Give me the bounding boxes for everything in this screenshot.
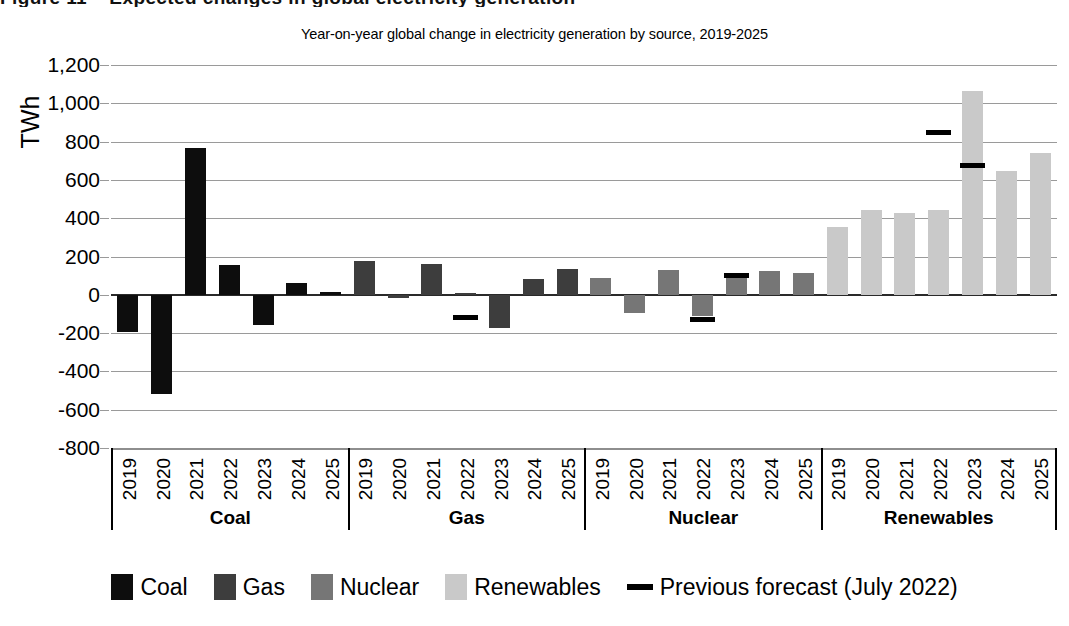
bar-nuclear-2023 [726, 277, 747, 295]
legend-swatch-icon [311, 574, 333, 600]
bar-coal-2021 [185, 148, 206, 294]
y-axis-tick [100, 448, 109, 449]
forecast-marker-nuclear-2022 [690, 317, 715, 322]
forecast-marker-renewables-2022 [926, 130, 951, 135]
bar-renewables-2020 [861, 210, 882, 295]
legend-label: Renewables [474, 574, 601, 601]
y-axis-tick [100, 65, 109, 66]
y-axis-tick [100, 295, 109, 296]
y-axis-tick-label: 600 [12, 169, 100, 190]
y-axis-tick-label: 800 [12, 131, 100, 152]
bar-nuclear-2019 [590, 278, 611, 295]
y-axis-tick-label: -600 [12, 399, 100, 420]
y-axis-tick [100, 103, 109, 104]
bar-gas-2023 [489, 295, 510, 329]
y-axis-tick-label: -400 [12, 360, 100, 381]
bar-gas-2022 [455, 293, 476, 295]
bar-renewables-2023 [962, 91, 983, 295]
legend-item-gas: Gas [214, 574, 285, 601]
y-axis-tick [100, 218, 109, 219]
y-axis-tick-label: 0 [12, 284, 100, 305]
y-axis-tick-label: 1,200 [12, 54, 100, 75]
y-axis-tick-label: 1,000 [12, 92, 100, 113]
legend-dash-icon [627, 584, 653, 590]
bar-nuclear-2021 [658, 270, 679, 295]
gridline [111, 333, 1057, 334]
bar-gas-2019 [354, 261, 375, 295]
legend-swatch-icon [445, 574, 467, 600]
legend-label: Gas [243, 574, 285, 601]
y-axis-tick-label: 200 [12, 246, 100, 267]
bar-renewables-2021 [894, 213, 915, 294]
plot-area: 1,2001,0008006004002000-200-400-600-800 … [0, 0, 1069, 626]
bar-gas-2024 [523, 279, 544, 295]
y-axis-tick [100, 142, 109, 143]
bar-nuclear-2024 [759, 271, 780, 295]
gridline [111, 65, 1057, 66]
legend-label: Previous forecast (July 2022) [660, 574, 958, 601]
y-axis-tick [100, 333, 109, 334]
y-axis-tick-label: -200 [12, 322, 100, 343]
bar-nuclear-2022 [692, 295, 713, 316]
bar-nuclear-2025 [793, 273, 814, 294]
bar-gas-2020 [388, 295, 409, 298]
bar-renewables-2025 [1030, 153, 1051, 295]
bar-gas-2021 [421, 264, 442, 295]
forecast-marker-gas-2022 [453, 315, 478, 320]
legend-item-nuclear: Nuclear [311, 574, 419, 601]
legend-label: Nuclear [340, 574, 419, 601]
legend-swatch-icon [214, 574, 236, 600]
legend-label: Coal [140, 574, 187, 601]
bar-gas-2025 [557, 269, 578, 295]
legend: CoalGasNuclearRenewablesPrevious forecas… [0, 570, 1069, 604]
gridline [111, 371, 1057, 372]
bar-coal-2024 [286, 283, 307, 294]
y-axis-tick-label: -800 [12, 437, 100, 458]
forecast-marker-renewables-2023 [960, 163, 985, 168]
bar-nuclear-2020 [624, 295, 645, 313]
forecast-marker-nuclear-2023 [724, 273, 749, 278]
category-axis: Coal2019202020212022202320242025Gas20192… [111, 448, 1057, 530]
category-group-coal: Coal2019202020212022202320242025 [111, 448, 348, 530]
legend-item-renewables: Renewables [445, 574, 601, 601]
bar-renewables-2024 [996, 171, 1017, 295]
bar-renewables-2019 [827, 227, 848, 295]
y-axis-tick [100, 371, 109, 372]
y-axis-tick [100, 257, 109, 258]
gridline [111, 142, 1057, 143]
gridline [111, 410, 1057, 411]
category-group-nuclear: Nuclear2019202020212022202320242025 [584, 448, 821, 530]
category-group-gas: Gas2019202020212022202320242025 [348, 448, 585, 530]
y-axis-tick [100, 180, 109, 181]
bar-renewables-2022 [928, 210, 949, 295]
bar-coal-2020 [151, 295, 172, 395]
y-axis-tick [100, 410, 109, 411]
gridline [111, 180, 1057, 181]
legend-item-coal: Coal [111, 574, 187, 601]
year-tick: 2025 [1015, 452, 1069, 506]
year-tick-label: 2025 [1031, 445, 1053, 513]
legend-swatch-icon [111, 574, 133, 600]
bar-coal-2025 [320, 292, 341, 295]
legend-item-previous-forecast-july-2022: Previous forecast (July 2022) [627, 574, 958, 601]
bar-coal-2022 [219, 265, 240, 295]
bar-coal-2023 [253, 295, 274, 326]
y-axis-tick-label: 400 [12, 207, 100, 228]
category-group-renewables: Renewables2019202020212022202320242025 [821, 448, 1058, 530]
gridline [111, 103, 1057, 104]
bar-coal-2019 [117, 295, 138, 332]
